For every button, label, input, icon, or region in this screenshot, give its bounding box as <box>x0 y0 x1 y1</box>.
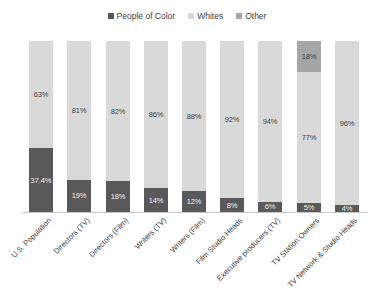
segment-value-label: 18% <box>302 52 317 61</box>
segment-value-label: 4% <box>342 205 353 212</box>
x-axis-category-labels: U.S. PopulationDirectors (TV)Directors (… <box>22 213 368 302</box>
chart-legend: People of Color Whites Other <box>0 9 374 23</box>
category-label-directors-tv: Directors (TV) <box>52 216 92 256</box>
category-label-u-s-population: U.S. Population <box>10 216 54 260</box>
segment-people-of-color-directors-tv[interactable]: 19% <box>67 180 91 212</box>
bar-tv-network-studio-heads[interactable]: 96%4% <box>335 41 359 212</box>
segment-value-label: 82% <box>111 107 126 116</box>
bar-executive-producers-tv[interactable]: 94%6% <box>258 41 282 212</box>
segment-value-label: 96% <box>340 119 355 128</box>
legend-swatch-other <box>236 13 242 19</box>
legend-label-whites: Whites <box>197 11 223 21</box>
segment-people-of-color-tv-network-studio-heads[interactable]: 4% <box>335 205 359 212</box>
category-label-writers-film: Writers (Film) <box>168 216 206 254</box>
legend-entry-whites[interactable]: Whites <box>188 11 223 21</box>
segment-value-label: 37.4% <box>31 176 52 185</box>
segment-whites-tv-station-owners[interactable]: 77% <box>297 72 321 204</box>
segment-whites-directors-film[interactable]: 82% <box>106 41 130 181</box>
plot-area: 63%37.4%81%19%82%18%86%14%88%12%92%8%94%… <box>22 41 366 212</box>
segment-value-label: 86% <box>149 110 164 119</box>
segment-people-of-color-tv-station-owners[interactable]: 5% <box>297 203 321 212</box>
segment-whites-writers-film[interactable]: 88% <box>182 41 206 191</box>
segment-value-label: 5% <box>304 203 315 212</box>
segment-value-label: 88% <box>187 112 202 121</box>
legend-swatch-people-of-color <box>108 13 114 19</box>
segment-whites-u-s-population[interactable]: 63% <box>29 41 53 148</box>
bar-writers-film[interactable]: 88%12% <box>182 41 206 212</box>
segment-people-of-color-executive-producers-tv[interactable]: 6% <box>258 202 282 212</box>
bar-film-studio-heads[interactable]: 92%8% <box>220 41 244 212</box>
stacked-bar-chart: People of Color Whites Other 63%37.4%81%… <box>0 0 374 302</box>
bar-writers-tv[interactable]: 86%14% <box>144 41 168 212</box>
segment-whites-tv-network-studio-heads[interactable]: 96% <box>335 41 359 205</box>
segment-value-label: 81% <box>72 106 87 115</box>
segment-value-label: 19% <box>72 191 87 200</box>
bar-directors-tv[interactable]: 81%19% <box>67 41 91 212</box>
segment-other-tv-station-owners[interactable]: 18% <box>297 41 321 72</box>
legend-entry-people-of-color[interactable]: People of Color <box>108 11 176 21</box>
legend-swatch-whites <box>188 13 194 19</box>
legend-label-other: Other <box>245 11 266 21</box>
segment-whites-film-studio-heads[interactable]: 92% <box>220 41 244 198</box>
legend-label-people-of-color: People of Color <box>117 11 176 21</box>
segment-whites-executive-producers-tv[interactable]: 94% <box>258 41 282 202</box>
segment-people-of-color-writers-tv[interactable]: 14% <box>144 188 168 212</box>
segment-people-of-color-writers-film[interactable]: 12% <box>182 191 206 212</box>
legend-entry-other[interactable]: Other <box>236 11 266 21</box>
segment-people-of-color-directors-film[interactable]: 18% <box>106 181 130 212</box>
segment-value-label: 14% <box>149 196 164 205</box>
segment-value-label: 94% <box>263 117 278 126</box>
segment-value-label: 77% <box>302 133 317 142</box>
bar-tv-station-owners[interactable]: 18%77%5% <box>297 41 321 212</box>
segment-value-label: 63% <box>34 90 49 99</box>
segment-whites-writers-tv[interactable]: 86% <box>144 41 168 188</box>
segment-value-label: 18% <box>111 192 126 201</box>
bar-directors-film[interactable]: 82%18% <box>106 41 130 212</box>
segment-value-label: 6% <box>265 202 276 211</box>
category-label-tv-network-studio-heads: TV Network & Studio Heads <box>286 216 359 289</box>
segment-value-label: 92% <box>225 115 240 124</box>
segment-value-label: 8% <box>227 201 238 210</box>
segment-whites-directors-tv[interactable]: 81% <box>67 41 91 180</box>
segment-value-label: 12% <box>187 197 202 206</box>
bar-u-s-population[interactable]: 63%37.4% <box>29 41 53 212</box>
segment-people-of-color-film-studio-heads[interactable]: 8% <box>220 198 244 212</box>
segment-people-of-color-u-s-population[interactable]: 37.4% <box>29 148 53 212</box>
category-label-writers-tv: Writers (TV) <box>133 216 168 251</box>
category-label-directors-film: Directors (Film) <box>87 216 130 259</box>
category-label-executive-producers-tv: Executive producers (TV) <box>215 216 282 283</box>
